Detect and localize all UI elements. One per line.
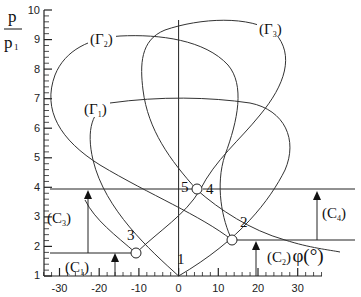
arrow-c2 bbox=[252, 241, 260, 276]
svg-text:(Γ2): (Γ2) bbox=[90, 31, 113, 49]
svg-text:p: p bbox=[8, 7, 17, 26]
x-tick: 10 bbox=[212, 282, 224, 294]
x-tick: -30 bbox=[52, 282, 68, 294]
y-tick: 4 bbox=[34, 181, 40, 193]
c1-label: (C1) bbox=[65, 259, 89, 277]
point-label-4: 4 bbox=[206, 181, 214, 197]
y-tick: 10 bbox=[28, 4, 40, 16]
y-tick: 6 bbox=[34, 122, 40, 134]
x-tick: 30 bbox=[292, 282, 304, 294]
gamma3-curve bbox=[85, 20, 340, 253]
c4-label: (C4) bbox=[322, 205, 346, 223]
y-tick: 3 bbox=[34, 210, 40, 222]
gamma2-label: (Γ2) bbox=[88, 29, 116, 49]
point-label-2: 2 bbox=[240, 214, 248, 230]
point-label-3: 3 bbox=[127, 227, 135, 243]
x-tick: -20 bbox=[91, 282, 107, 294]
gamma1-curve bbox=[90, 98, 290, 276]
c2-label: (C2) bbox=[267, 249, 291, 267]
y-tick: 9 bbox=[34, 33, 40, 45]
x-tick: 20 bbox=[252, 282, 264, 294]
state-3-marker bbox=[131, 248, 141, 258]
shock-polar-diagram: 1 2 3 4 5 6 7 8 9 10 p p 1 -30 -20 -10 0 bbox=[0, 0, 361, 297]
x-tick: -10 bbox=[131, 282, 147, 294]
y-tick: 2 bbox=[34, 240, 40, 252]
svg-text:p: p bbox=[4, 33, 13, 52]
y-tick: 1 bbox=[34, 269, 40, 281]
y-axis: 1 2 3 4 5 6 7 8 9 10 bbox=[28, 4, 52, 281]
arrow-c4 bbox=[313, 191, 321, 240]
point-label-5: 5 bbox=[181, 179, 189, 195]
svg-text:1: 1 bbox=[14, 42, 19, 52]
y-tick: 8 bbox=[34, 63, 40, 75]
x-tick: 0 bbox=[176, 282, 182, 294]
diagram-canvas: 1 2 3 4 5 6 7 8 9 10 p p 1 -30 -20 -10 0 bbox=[0, 0, 361, 297]
state-4-5-marker bbox=[192, 184, 202, 194]
gamma3-label: (Γ3) bbox=[257, 19, 285, 39]
gamma1-label: (Γ1) bbox=[82, 99, 110, 119]
arrow-c3 bbox=[84, 190, 92, 253]
arrow-c1 bbox=[111, 253, 119, 276]
y-tick: 5 bbox=[34, 151, 40, 163]
c3-label: (C3) bbox=[47, 210, 71, 228]
y-tick: 7 bbox=[34, 92, 40, 104]
y-axis-label: p p 1 bbox=[4, 7, 22, 52]
svg-text:(Γ1): (Γ1) bbox=[84, 101, 107, 119]
point-label-1: 1 bbox=[177, 251, 185, 267]
svg-text:(Γ3): (Γ3) bbox=[259, 21, 282, 39]
state-2-marker bbox=[227, 235, 237, 245]
gamma2-curve bbox=[51, 36, 238, 240]
